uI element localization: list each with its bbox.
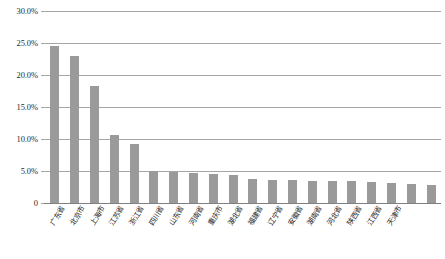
- y-axis-tick-label: 25.0%: [17, 39, 38, 48]
- x-axis-labels: 广东省北京市上海市江苏省浙江省四川省山东省河南省重庆市湖北省福建省辽宁省安徽省湖…: [45, 205, 441, 259]
- y-axis-tick-label: 20.0%: [17, 71, 38, 80]
- y-axis-tick-label: 10.0%: [17, 135, 38, 144]
- y-axis-tick-label: 5.0%: [21, 167, 38, 176]
- x-axis-tick-label: 湖南省: [306, 205, 323, 227]
- x-axis-tick-label: 福建省: [247, 205, 264, 227]
- x-axis-tick-label: 江苏省: [108, 205, 125, 227]
- bar: [347, 181, 356, 203]
- bar: [328, 181, 337, 203]
- bar: [149, 171, 158, 203]
- x-axis-tick-label: 重庆市: [207, 205, 224, 227]
- bar: [229, 175, 238, 203]
- x-axis-tick-label: 广东省: [49, 205, 66, 227]
- bar: [70, 56, 79, 203]
- bar: [50, 46, 59, 203]
- bar: [209, 174, 218, 203]
- bar: [288, 180, 297, 203]
- bar: [407, 184, 416, 203]
- y-axis-tick-label: 0: [34, 199, 38, 208]
- x-axis-tick-label: 山东省: [168, 205, 185, 227]
- y-axis-tick-label: 15.0%: [17, 103, 38, 112]
- bar: [367, 182, 376, 203]
- bar: [110, 135, 119, 203]
- y-axis-tick-label: 30.0%: [17, 7, 38, 16]
- x-axis-tick-label: 江西省: [366, 205, 383, 227]
- bar: [427, 185, 436, 203]
- x-axis-tick-label: 陕西省: [346, 205, 363, 227]
- x-axis-tick-label: 辽宁省: [267, 205, 284, 227]
- x-axis-tick-label: 浙江省: [128, 205, 145, 227]
- x-axis-tick-label: 四川省: [148, 205, 165, 227]
- bar: [308, 181, 317, 203]
- x-axis-tick-label: 天津市: [385, 205, 402, 227]
- x-axis-line: [44, 203, 441, 204]
- x-axis-tick-label: 安徽省: [286, 205, 303, 227]
- x-axis-tick-label: 湖北省: [227, 205, 244, 227]
- plot-area: [45, 11, 441, 203]
- bar: [169, 172, 178, 203]
- x-axis-tick-label: 上海市: [88, 205, 105, 227]
- bar-chart: 30.0%25.0%20.0%15.0%10.0%5.0%0 广东省北京市上海市…: [0, 0, 445, 259]
- bar-series: [45, 11, 441, 203]
- bar: [130, 144, 139, 203]
- x-axis-tick-label: 北京市: [69, 205, 86, 227]
- bar: [268, 180, 277, 203]
- bar: [387, 183, 396, 203]
- y-axis: 30.0%25.0%20.0%15.0%10.0%5.0%0: [0, 0, 42, 259]
- bar: [90, 86, 99, 203]
- bar: [189, 173, 198, 203]
- x-axis-tick-label: 河南省: [187, 205, 204, 227]
- x-axis-tick-label: 河北省: [326, 205, 343, 227]
- bar: [248, 179, 257, 203]
